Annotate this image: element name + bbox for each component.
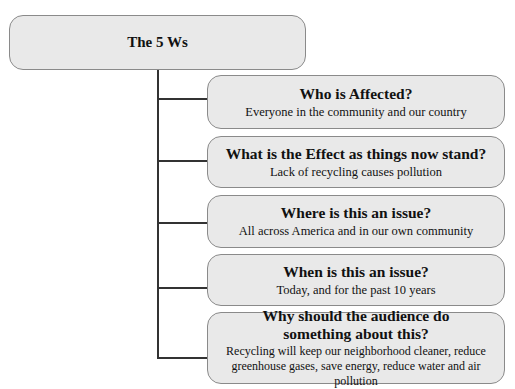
node-who: Who is Affected? Everyone in the communi…	[207, 75, 505, 129]
branch-connector-3	[157, 222, 207, 224]
branch-connector-2	[157, 160, 207, 162]
root-label: The 5 Ws	[127, 34, 188, 51]
node-why: Why should the audience do something abo…	[207, 312, 505, 384]
node-title: Where is this an issue?	[281, 204, 431, 222]
node-what: What is the Effect as things now stand? …	[207, 136, 505, 188]
node-where: Where is this an issue? All across Ameri…	[207, 195, 505, 248]
node-title: What is the Effect as things now stand?	[226, 145, 487, 163]
node-body: Recycling will keep our neighborhood cle…	[214, 344, 498, 389]
trunk-connector	[157, 69, 159, 358]
node-when: When is this an issue? Today, and for th…	[207, 254, 505, 306]
branch-connector-1	[157, 98, 207, 100]
node-body: All across America and in our own commun…	[239, 223, 473, 239]
node-body: Today, and for the past 10 years	[276, 282, 435, 298]
node-title: When is this an issue?	[283, 263, 429, 281]
branch-connector-5	[157, 357, 207, 359]
node-body: Everyone in the community and our countr…	[245, 104, 466, 120]
root-node: The 5 Ws	[9, 15, 306, 70]
node-title: Who is Affected?	[300, 85, 413, 103]
branch-connector-4	[157, 287, 207, 289]
node-body: Lack of recycling causes pollution	[270, 164, 442, 180]
node-title: Why should the audience do something abo…	[236, 307, 476, 343]
